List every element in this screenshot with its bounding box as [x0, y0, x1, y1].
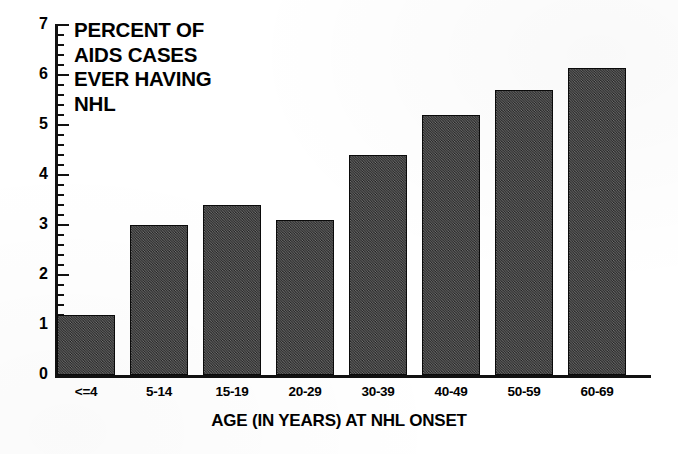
- y-axis-minor-tick: [58, 164, 64, 166]
- y-axis-tick-label-text: 7: [14, 16, 48, 32]
- y-axis-tick-label-text: 5: [14, 116, 48, 132]
- y-axis-major-tick: [58, 274, 69, 276]
- bar: [130, 225, 188, 375]
- x-axis-tick-label: <=4: [49, 384, 123, 399]
- x-axis-tick-label: 30-39: [341, 384, 415, 399]
- y-axis-minor-tick: [58, 254, 64, 256]
- bar: [276, 220, 334, 375]
- y-axis-minor-tick: [58, 184, 64, 186]
- y-axis-minor-tick: [58, 64, 64, 66]
- bar: [422, 115, 480, 375]
- x-axis-tick-label: 15-19: [195, 384, 269, 399]
- y-axis-minor-tick: [58, 304, 64, 306]
- y-axis-minor-tick: [58, 84, 64, 86]
- y-axis-minor-tick: [58, 234, 64, 236]
- y-axis-minor-tick: [58, 244, 64, 246]
- y-axis-tick-label-text: 6: [14, 66, 48, 82]
- y-axis-minor-tick: [58, 54, 64, 56]
- chart-title: PERCENT OF AIDS CASES EVER HAVING NHL: [74, 18, 212, 116]
- y-axis-minor-tick: [58, 204, 64, 206]
- x-axis-line: [55, 375, 651, 378]
- x-axis-tick-label: 20-29: [268, 384, 342, 399]
- bar: [57, 315, 115, 375]
- x-axis-tick-label: 5-14: [122, 384, 196, 399]
- x-axis-title: AGE (IN YEARS) AT NHL ONSET: [0, 411, 678, 431]
- y-axis-tick-label-text: 1: [14, 316, 48, 332]
- y-axis-minor-tick: [58, 294, 64, 296]
- x-axis-tick-label: 60-69: [560, 384, 634, 399]
- y-axis-minor-tick: [58, 264, 64, 266]
- y-axis-minor-tick: [58, 194, 64, 196]
- y-axis-minor-tick: [58, 144, 64, 146]
- y-axis-tick-label-text: 4: [14, 166, 48, 182]
- chart-figure: 01234567 <=45-1415-1920-2930-3940-4950-5…: [0, 0, 678, 454]
- bar: [495, 90, 553, 375]
- y-axis-minor-tick: [58, 214, 64, 216]
- y-axis-minor-tick: [58, 134, 64, 136]
- y-axis-major-tick: [58, 224, 69, 226]
- y-axis-major-tick: [58, 24, 69, 26]
- y-axis-tick-label-text: 2: [14, 266, 48, 282]
- y-axis-minor-tick: [58, 114, 64, 116]
- bar: [203, 205, 261, 375]
- y-axis-tick-label-text: 3: [14, 216, 48, 232]
- y-axis-minor-tick: [58, 104, 64, 106]
- y-axis-minor-tick: [58, 34, 64, 36]
- bar: [349, 155, 407, 375]
- y-axis-minor-tick: [58, 154, 64, 156]
- y-axis-major-tick: [58, 124, 69, 126]
- y-axis-major-tick: [58, 174, 69, 176]
- y-axis-minor-tick: [58, 94, 64, 96]
- y-axis-minor-tick: [58, 44, 64, 46]
- x-axis-tick-label: 50-59: [487, 384, 561, 399]
- bar: [568, 68, 626, 376]
- y-axis-minor-tick: [58, 284, 64, 286]
- x-axis-tick-label: 40-49: [414, 384, 488, 399]
- y-axis-major-tick: [58, 74, 69, 76]
- y-axis-tick-label-text: 0: [14, 366, 48, 382]
